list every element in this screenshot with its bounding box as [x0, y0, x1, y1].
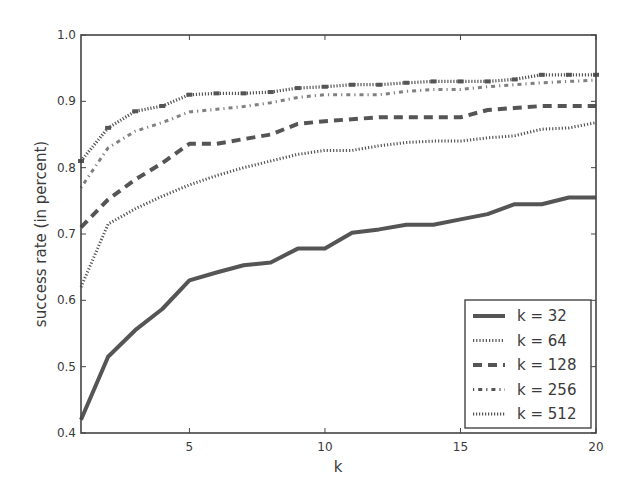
- data-point-marker: [430, 79, 436, 83]
- data-point-marker: [512, 77, 518, 81]
- y-tick-label: 1.0: [57, 28, 76, 42]
- data-point-marker: [105, 126, 111, 130]
- data-point-marker: [485, 79, 491, 83]
- legend: k = 32k = 64k = 128k = 256k = 512: [465, 300, 591, 428]
- data-point-marker: [186, 93, 192, 97]
- y-tick-label: 0.5: [57, 360, 76, 374]
- legend-label: k = 64: [517, 332, 567, 350]
- data-point-marker: [566, 73, 572, 77]
- series-line-k128: [81, 106, 596, 227]
- y-tick-label: 0.6: [57, 293, 76, 307]
- x-axis-label: k: [334, 458, 343, 476]
- data-point-marker: [457, 79, 463, 83]
- data-point-marker: [159, 104, 165, 108]
- legend-label: k = 128: [517, 356, 576, 374]
- series-line-k256: [81, 80, 596, 188]
- legend-label: k = 512: [517, 405, 576, 423]
- data-point-marker: [349, 83, 355, 87]
- data-point-marker: [403, 81, 409, 85]
- data-point-marker: [268, 90, 274, 94]
- data-point-marker: [132, 109, 138, 113]
- x-tick-label: 15: [453, 440, 468, 454]
- data-point-marker: [241, 91, 247, 95]
- y-tick-label: 0.9: [57, 94, 76, 108]
- legend-label: k = 256: [517, 381, 576, 399]
- y-tick-label: 0.4: [57, 426, 76, 440]
- y-tick-label: 0.7: [57, 227, 76, 241]
- legend-label: k = 32: [517, 307, 567, 325]
- x-tick-label: 5: [186, 440, 194, 454]
- data-point-marker: [214, 91, 220, 95]
- x-tick-label: 20: [588, 440, 603, 454]
- data-point-marker: [376, 83, 382, 87]
- data-point-marker: [322, 85, 328, 89]
- x-tick-label: 10: [317, 440, 332, 454]
- series-line-k512: [81, 75, 596, 161]
- data-point-marker: [295, 86, 301, 90]
- y-tick-label: 0.8: [57, 161, 76, 175]
- line-chart: 0.40.50.60.70.80.91.05101520 k success r…: [0, 0, 634, 497]
- y-axis-label: success rate (in percent): [32, 141, 50, 327]
- data-point-marker: [539, 73, 545, 77]
